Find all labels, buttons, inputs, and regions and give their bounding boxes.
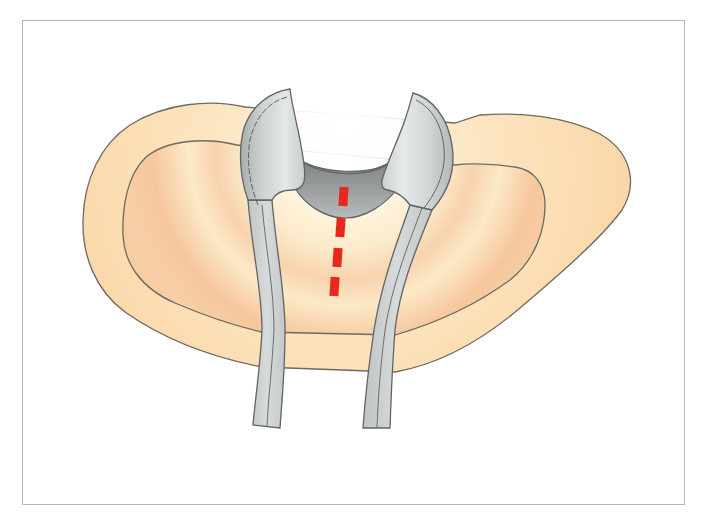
incision-dash-4 [329,277,339,297]
incision-dash-2 [335,218,345,238]
retractor-illustration [0,0,704,525]
incision-dash-1 [338,187,348,207]
incision-dash-3 [332,248,342,268]
figure-canvas: surgical retractor spreading tissue with… [0,0,704,525]
left-retractor-blade [241,89,305,200]
